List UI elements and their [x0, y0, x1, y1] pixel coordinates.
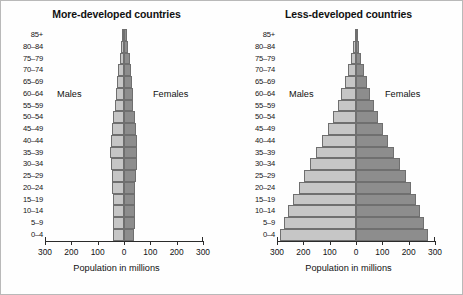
pyramid-row	[277, 123, 435, 135]
pyramid-row	[277, 41, 435, 53]
pyramid-row	[277, 182, 435, 194]
age-group-label: 15–19	[239, 194, 275, 206]
age-group-label: 25–29	[7, 170, 43, 182]
pyramid-row	[45, 194, 203, 206]
age-group-label: 35–39	[7, 147, 43, 159]
pyramid-row	[45, 135, 203, 147]
age-group-label: 85+	[7, 29, 43, 41]
pyramid-row	[277, 217, 435, 229]
pyramid-row	[45, 158, 203, 170]
bar-male	[113, 205, 124, 217]
pyramid-row	[45, 111, 203, 123]
bar-female	[356, 123, 383, 135]
males-label-left: Males	[57, 89, 82, 99]
pyramid-row	[45, 147, 203, 159]
bar-male	[112, 123, 124, 135]
x-tick-label: 300	[270, 247, 284, 257]
bar-female	[356, 170, 406, 182]
x-tick-label: 300	[196, 247, 210, 257]
age-group-label: 45–49	[239, 123, 275, 135]
bar-male	[112, 170, 124, 182]
age-group-label: 10–14	[7, 205, 43, 217]
x-tick	[409, 241, 410, 245]
x-axis-title-left: Population in millions	[1, 263, 232, 273]
pyramid-row	[45, 76, 203, 88]
x-tick-label: 0	[122, 247, 127, 257]
bar-female	[124, 135, 137, 147]
bar-female	[124, 217, 135, 229]
pyramid-plot-more-developed	[45, 29, 203, 241]
age-axis-left: 85+80–8475–7970–7465–6960–6455–5950–5445…	[7, 29, 43, 241]
age-group-label: 25–29	[239, 170, 275, 182]
age-group-label: 0–4	[7, 229, 43, 241]
bar-male	[111, 135, 124, 147]
pyramid-row	[277, 53, 435, 65]
pyramid-row	[45, 64, 203, 76]
bar-male	[113, 111, 124, 123]
bar-male	[345, 76, 356, 88]
females-label-left: Females	[153, 89, 188, 99]
bar-female	[356, 41, 359, 53]
bar-male	[348, 64, 356, 76]
pyramid-row	[277, 64, 435, 76]
bar-female	[356, 64, 364, 76]
bar-male	[304, 170, 356, 182]
bar-female	[124, 194, 135, 206]
bar-male	[110, 147, 124, 159]
bar-male	[288, 205, 356, 217]
pyramid-row	[45, 123, 203, 135]
bar-female	[356, 29, 358, 41]
bar-female	[124, 53, 130, 65]
bar-female	[356, 76, 367, 88]
bar-female	[124, 111, 135, 123]
bar-female	[356, 194, 416, 206]
age-group-label: 15–19	[7, 194, 43, 206]
age-group-label: 30–34	[7, 158, 43, 170]
age-group-label: 10–14	[239, 205, 275, 217]
bar-male	[116, 88, 124, 100]
x-tick-label: 100	[323, 247, 337, 257]
bar-male	[113, 194, 124, 206]
x-tick	[277, 241, 278, 245]
bar-male	[333, 111, 356, 123]
bar-female	[124, 100, 133, 112]
age-group-label: 20–24	[7, 182, 43, 194]
pyramid-row	[277, 111, 435, 123]
x-tick	[45, 241, 46, 245]
age-group-label: 5–9	[7, 217, 43, 229]
bar-female	[124, 41, 128, 53]
bar-female	[124, 123, 136, 135]
x-tick	[303, 241, 304, 245]
bar-male	[113, 217, 124, 229]
pyramid-row	[45, 41, 203, 53]
x-tick-label: 200	[296, 247, 310, 257]
age-group-label: 55–59	[239, 100, 275, 112]
pyramid-row	[277, 100, 435, 112]
x-tick	[203, 241, 204, 245]
pyramid-row	[45, 205, 203, 217]
bar-female	[356, 88, 370, 100]
chart-title-less-developed: Less-developed countries	[233, 8, 463, 20]
x-tick	[98, 241, 99, 245]
x-tick	[124, 241, 125, 245]
bar-male	[115, 100, 124, 112]
age-group-label: 70–74	[7, 64, 43, 76]
bar-male	[112, 182, 124, 194]
bar-male	[328, 123, 356, 135]
pyramid-row	[45, 100, 203, 112]
bar-male	[322, 135, 356, 147]
age-group-label: 5–9	[239, 217, 275, 229]
pyramid-row	[277, 135, 435, 147]
x-tick	[435, 241, 436, 245]
bar-female	[356, 229, 428, 241]
x-tick-label: 0	[354, 247, 359, 257]
pyramid-row	[277, 147, 435, 159]
pyramid-row	[45, 217, 203, 229]
age-group-label: 45–49	[7, 123, 43, 135]
x-tick-label: 300	[428, 247, 442, 257]
age-group-label: 0–4	[239, 229, 275, 241]
bar-female	[124, 64, 131, 76]
age-group-label: 80–84	[7, 41, 43, 53]
x-tick-label: 100	[375, 247, 389, 257]
age-group-label: 60–64	[7, 88, 43, 100]
